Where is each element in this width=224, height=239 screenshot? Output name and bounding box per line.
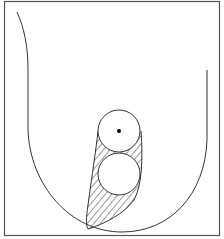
diagram-figure bbox=[0, 0, 224, 239]
center-dot bbox=[117, 129, 121, 133]
lower-circle bbox=[98, 153, 140, 195]
